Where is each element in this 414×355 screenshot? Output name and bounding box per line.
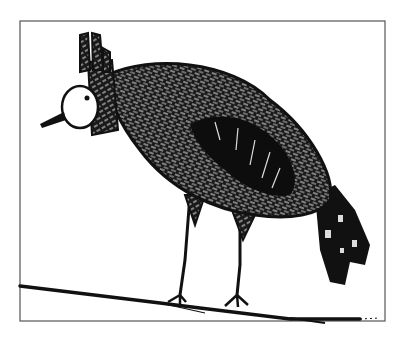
eye-icon: [85, 96, 90, 101]
face: [62, 86, 98, 128]
bird-drawing: [0, 0, 414, 355]
branch: [20, 286, 380, 323]
beak: [40, 112, 66, 128]
crest: [80, 33, 110, 72]
